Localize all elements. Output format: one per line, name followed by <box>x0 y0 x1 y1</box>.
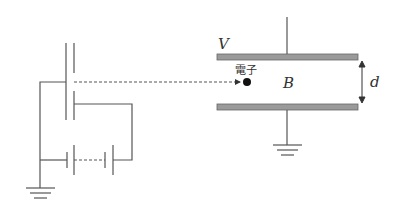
battery-bank <box>67 145 113 175</box>
voltage-label: V <box>218 35 231 53</box>
ground-right-icon <box>273 145 302 155</box>
wire-ground-to-electrode <box>40 82 66 188</box>
magnetic-field-label: B <box>282 74 294 92</box>
electron-label: 電子 <box>235 64 257 77</box>
capacitor-bottom-plate <box>217 104 358 110</box>
electron <box>243 78 251 86</box>
plate-separation-label: d <box>370 73 380 91</box>
circuit-diagram: 電子 V B d <box>0 0 395 211</box>
separation-arrow-icon <box>359 61 365 103</box>
accelerating-electrodes <box>66 43 74 120</box>
capacitor-top-plate <box>217 54 358 60</box>
ground-left-icon <box>26 188 55 198</box>
left-circuit-wires <box>40 82 132 188</box>
wire-electrode-to-battery <box>74 104 132 160</box>
